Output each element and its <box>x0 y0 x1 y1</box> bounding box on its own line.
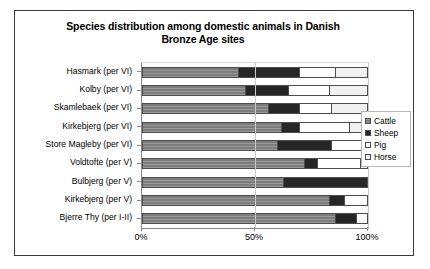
bar-segment-cattle[interactable] <box>142 103 269 114</box>
bar-segment-cattle[interactable] <box>142 85 246 96</box>
legend-swatch-icon <box>365 154 371 160</box>
bar-segment-pig[interactable] <box>345 195 368 206</box>
y-axis-label: Store Magleby (per VI) <box>12 139 132 149</box>
y-axis-label: Kirkebjerg (per VI) <box>12 121 132 131</box>
y-axis-label: Kolby (per VI) <box>12 84 132 94</box>
legend-swatch-icon <box>365 142 371 148</box>
gridline-50 <box>255 63 256 228</box>
legend-label: Pig <box>374 140 386 150</box>
legend-item-sheep[interactable]: Sheep <box>365 127 407 139</box>
bar-segment-sheep[interactable] <box>239 67 300 78</box>
y-axis-label: Skamlebaek (per VI) <box>12 102 132 112</box>
x-axis-tick <box>141 227 142 231</box>
bar-segment-pig[interactable] <box>357 213 368 224</box>
plot-area <box>141 62 369 229</box>
bar-segment-sheep[interactable] <box>246 85 289 96</box>
legend-swatch-icon <box>365 130 371 136</box>
bar-segment-pig[interactable] <box>300 67 336 78</box>
bar-segment-cattle[interactable] <box>142 158 305 169</box>
bar-segment-sheep[interactable] <box>305 158 319 169</box>
bar-segment-pig[interactable] <box>300 103 332 114</box>
y-axis-labels: Hasmark (per VI)Kolby (per VI)Skamlebaek… <box>15 62 137 227</box>
chart-frame: Species distribution among domestic anim… <box>14 10 414 256</box>
legend-item-pig[interactable]: Pig <box>365 139 407 151</box>
bar-segment-pig[interactable] <box>289 85 330 96</box>
bar-segment-sheep[interactable] <box>330 195 346 206</box>
legend-label: Cattle <box>374 116 396 126</box>
legend-swatch-icon <box>365 118 371 124</box>
x-axis-labels: 0%50%100% <box>141 232 369 246</box>
legend-item-cattle[interactable]: Cattle <box>365 115 407 127</box>
bar-segment-sheep[interactable] <box>278 140 332 151</box>
bar-segment-sheep[interactable] <box>284 177 368 188</box>
legend-item-horse[interactable]: Horse <box>365 151 407 163</box>
chart-title: Species distribution among domestic anim… <box>43 20 363 46</box>
bar-segment-horse[interactable] <box>330 85 368 96</box>
x-axis-label: 50% <box>245 232 263 242</box>
bar-segment-cattle[interactable] <box>142 122 282 133</box>
bar-segment-cattle[interactable] <box>142 213 336 224</box>
y-axis-label: Bulbjerg (per V) <box>12 176 132 186</box>
y-axis-label: Hasmark (per VI) <box>12 66 132 76</box>
bar-segment-cattle[interactable] <box>142 67 239 78</box>
x-axis-tick <box>367 227 368 231</box>
y-axis-label: Kirkebjerg (per V) <box>12 194 132 204</box>
bar-segment-cattle[interactable] <box>142 177 284 188</box>
bar-segment-sheep[interactable] <box>336 213 356 224</box>
x-axis-label: 0% <box>134 232 147 242</box>
x-axis-label: 100% <box>355 232 378 242</box>
y-axis-label: Bjerre Thy (per I-II) <box>12 212 132 222</box>
bar-segment-sheep[interactable] <box>269 103 301 114</box>
chart-title-line-2: Bronze Age sites <box>43 33 363 46</box>
bar-segment-pig[interactable] <box>318 158 361 169</box>
bar-segment-cattle[interactable] <box>142 195 330 206</box>
y-axis-label: Voldtofte (per V) <box>12 157 132 167</box>
bar-segment-pig[interactable] <box>300 122 350 133</box>
bar-segment-horse[interactable] <box>336 67 368 78</box>
bar-segment-sheep[interactable] <box>282 122 300 133</box>
chart-legend: CattleSheepPigHorse <box>361 111 411 167</box>
bar-segment-cattle[interactable] <box>142 140 278 151</box>
chart-title-line-1: Species distribution among domestic anim… <box>43 20 363 33</box>
legend-label: Horse <box>374 152 396 162</box>
x-axis-tick <box>254 227 255 231</box>
legend-label: Sheep <box>374 128 398 138</box>
